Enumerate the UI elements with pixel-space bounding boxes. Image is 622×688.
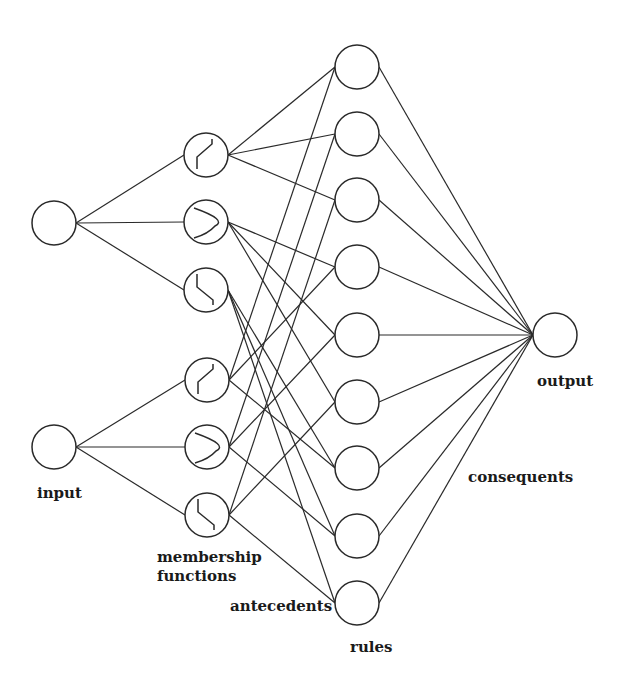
rule-node-R4: [335, 245, 379, 289]
edge-A2-R5: [228, 222, 335, 335]
consequents-label: consequents: [468, 468, 573, 486]
membership-node-A2: [184, 200, 228, 244]
edge-input-A3: [76, 223, 184, 290]
rule-node-R7: [335, 446, 379, 490]
rule-node-R3: [335, 178, 379, 222]
edge-R2-output: [379, 134, 533, 335]
edge-B2-R5: [229, 335, 335, 447]
edge-R1-output: [379, 67, 533, 335]
edge-input-B3: [76, 447, 185, 515]
edge-R7-output: [379, 335, 533, 468]
edge-input-A1: [76, 155, 184, 223]
edge-B2-R8: [229, 447, 335, 536]
edge-B3-R3: [229, 200, 335, 515]
antecedents-label: antecedents: [230, 597, 332, 615]
connections: [76, 67, 533, 603]
rule-node-R2: [335, 112, 379, 156]
output-node: [533, 313, 577, 357]
edge-B1-R1: [229, 67, 335, 380]
rule-node-R5: [335, 313, 379, 357]
output-label: output: [537, 372, 593, 390]
edge-R3-output: [379, 200, 533, 335]
membership-node-B2: [185, 425, 229, 469]
edge-A1-R2: [228, 134, 335, 155]
edge-A3-R7: [228, 290, 335, 468]
membership-functions-label-line1: membership: [157, 548, 262, 566]
edge-A2-R4: [228, 222, 335, 267]
anfis-diagram: [0, 0, 622, 688]
rule-node-R9: [335, 581, 379, 625]
rule-node-R8: [335, 514, 379, 558]
input-node-1: [32, 201, 76, 245]
edge-input-A2: [76, 222, 184, 223]
edge-B1-R4: [229, 267, 335, 380]
edge-A1-R1: [228, 67, 335, 155]
edge-A1-R3: [228, 155, 335, 200]
rules-label: rules: [350, 638, 393, 656]
rule-node-R6: [335, 380, 379, 424]
membership-node-A1: [184, 133, 228, 177]
membership-functions-label-line2: functions: [157, 567, 236, 585]
edge-B1-R7: [229, 380, 335, 468]
membership-node-B3: [185, 493, 229, 537]
edge-input-B1: [76, 380, 185, 447]
rule-node-R1: [335, 45, 379, 89]
input-node-2: [32, 425, 76, 469]
membership-node-A3: [184, 268, 228, 312]
edge-R6-output: [379, 335, 533, 402]
edge-R8-output: [379, 335, 533, 536]
edge-R4-output: [379, 267, 533, 335]
membership-node-B1: [185, 358, 229, 402]
edge-B2-R2: [229, 134, 335, 447]
input-label: input: [37, 484, 82, 502]
